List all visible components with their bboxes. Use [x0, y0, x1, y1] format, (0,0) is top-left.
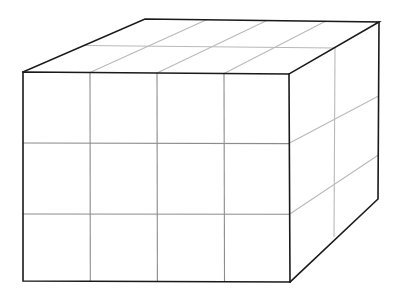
cuboid-grid-figure: [0, 0, 401, 304]
front-horizontal-gridline-1: [23, 143, 290, 144]
front-face-fill: [23, 72, 290, 282]
face-fills: [23, 19, 379, 282]
figure-canvas: [0, 0, 401, 304]
front-vertical-gridline-3: [224, 73, 225, 282]
